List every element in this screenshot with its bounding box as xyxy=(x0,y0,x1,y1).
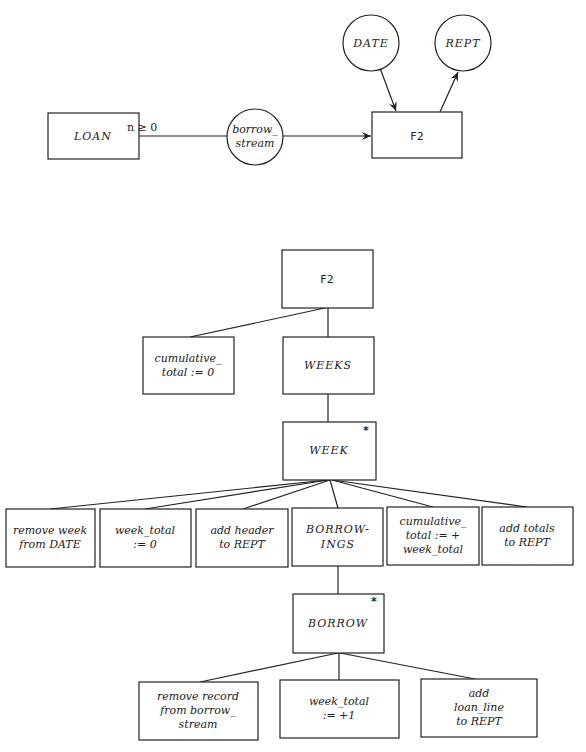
node-text-line: add totals xyxy=(499,522,555,535)
borrow-child-week-total-increment: week_total := +1 xyxy=(280,680,399,738)
node-text-line: stream xyxy=(179,718,218,731)
borrow-stream-label-line1: borrow_ xyxy=(232,123,278,136)
node-text-line: week_total xyxy=(403,543,464,556)
week-child-cumulative-add: cumulative_ total := + week_total xyxy=(387,507,479,565)
init-cumulative-line2: total := 0 xyxy=(162,366,214,379)
week-to-child-edge xyxy=(332,480,527,507)
iteration-marker: * xyxy=(363,424,369,437)
structure-diagram: F2 cumulative_ total := 0 WEEKS WEEK * r… xyxy=(6,250,573,740)
init-cumulative-line1: cumulative_ xyxy=(155,352,222,365)
node-text-line: remove record xyxy=(157,690,239,703)
f2-root-label: F2 xyxy=(320,273,333,286)
rept-label: REPT xyxy=(444,37,481,50)
node-text-line: cumulative_ xyxy=(400,515,467,528)
date-datastream: DATE xyxy=(343,15,399,71)
f2-to-rept-arrow xyxy=(440,72,458,112)
iteration-marker: * xyxy=(371,595,377,608)
node-text-line: from DATE xyxy=(18,538,80,551)
node-text-line: week_total xyxy=(309,695,370,708)
cardinality-label: n ≥ 0 xyxy=(127,121,157,134)
node-text-line: := +1 xyxy=(323,709,356,722)
date-to-f2-arrow xyxy=(380,68,396,111)
init-cumulative-node: cumulative_ total := 0 xyxy=(143,337,234,394)
rept-datastream: REPT xyxy=(435,15,491,71)
week-child-borrowings: BORROW- INGS xyxy=(292,508,383,566)
node-text-line: loan_line xyxy=(454,701,504,714)
f2-process: F2 xyxy=(372,112,462,158)
f2-root-node: F2 xyxy=(282,250,373,308)
node-text-line: to REPT xyxy=(456,715,503,728)
borrow-child-add-loan-line: add loan_line to REPT xyxy=(421,679,537,737)
week-child-remove-week: remove week from DATE xyxy=(6,509,95,567)
borrow-to-child-edge xyxy=(200,653,338,682)
node-text-line: INGS xyxy=(320,538,355,551)
jsp-diagram: LOAN n ≥ 0 borrow_ stream F2 DATE REPT xyxy=(0,0,586,752)
borrow-stream-label-line2: stream xyxy=(236,137,275,150)
borrow-stream-datastream: borrow_ stream xyxy=(227,109,283,165)
node-text-line: add header xyxy=(210,524,274,537)
node-text-line: := 0 xyxy=(133,538,156,551)
week-to-child-edge xyxy=(145,480,328,509)
week-node: WEEK * xyxy=(283,422,376,480)
node-text-line: to REPT xyxy=(504,536,551,549)
date-label: DATE xyxy=(352,37,389,50)
borrow-label: BORROW xyxy=(307,617,369,630)
week-child-week-total-reset: week_total := 0 xyxy=(100,509,191,567)
node-text-line: remove week xyxy=(13,524,87,537)
borrow-node: BORROW * xyxy=(293,594,384,653)
loan-label: LOAN xyxy=(73,130,112,143)
context-diagram: LOAN n ≥ 0 borrow_ stream F2 DATE REPT xyxy=(48,15,491,165)
node-text-line: add xyxy=(469,687,490,700)
week-to-child-edge xyxy=(330,480,338,508)
f2-process-label: F2 xyxy=(410,130,423,143)
week-child-add-totals: add totals to REPT xyxy=(482,507,573,565)
f2-to-init-edge xyxy=(190,308,325,337)
node-text-line: to REPT xyxy=(219,538,266,551)
node-text-line: week_total xyxy=(115,524,176,537)
week-to-child-edge xyxy=(332,480,433,507)
week-label: WEEK xyxy=(309,444,349,457)
week-child-add-header: add header to REPT xyxy=(196,509,288,567)
loan-entity: LOAN xyxy=(48,113,139,159)
weeks-label: WEEKS xyxy=(304,359,352,372)
node-text-line: BORROW- xyxy=(305,523,370,536)
node-text-line: from borrow_ xyxy=(159,704,236,717)
borrow-to-child-edge xyxy=(340,653,475,679)
borrow-child-remove-record: remove record from borrow_ stream xyxy=(139,682,258,740)
weeks-node: WEEKS xyxy=(283,337,374,394)
node-text-line: total := + xyxy=(406,529,461,542)
